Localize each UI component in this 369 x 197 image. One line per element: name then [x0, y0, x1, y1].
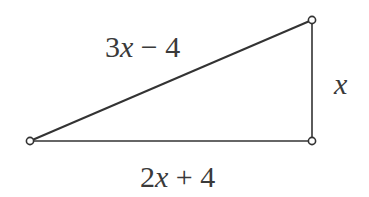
vertex-bottom-right [308, 137, 315, 144]
triangle-diagram: 3x − 4 x 2x + 4 [0, 0, 369, 197]
vertical-side-label: x [333, 67, 348, 100]
vertex-left [26, 137, 33, 144]
base-label: 2x + 4 [140, 160, 215, 193]
vertex-top-right [308, 16, 315, 23]
hypotenuse-label: 3x − 4 [105, 30, 180, 63]
